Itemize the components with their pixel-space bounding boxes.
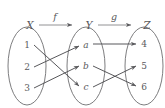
set-label-x: X — [25, 19, 34, 31]
diagram-canvas: X Y Z f g 1 2 3 a b c 4 5 6 — [0, 0, 165, 108]
element-z-6: 6 — [141, 82, 147, 92]
set-label-z: Z — [142, 19, 151, 31]
map-arrow-f-1-c — [34, 45, 79, 86]
set-label-y: Y — [86, 19, 94, 31]
element-x-3: 3 — [24, 83, 30, 93]
element-z-4: 4 — [141, 39, 147, 49]
element-y-b: b — [83, 61, 89, 71]
function-label-f: f — [52, 11, 58, 22]
element-z-5: 5 — [141, 61, 147, 71]
element-y-c: c — [83, 82, 88, 92]
map-arrow-f-3-b — [34, 66, 79, 88]
map-arrow-f-2-a — [34, 46, 79, 67]
element-x-2: 2 — [24, 62, 30, 72]
function-composition-diagram: X Y Z f g 1 2 3 a b c 4 5 6 — [0, 0, 165, 108]
element-x-1: 1 — [24, 40, 30, 50]
function-label-g: g — [111, 11, 117, 22]
element-y-a: a — [83, 40, 88, 50]
